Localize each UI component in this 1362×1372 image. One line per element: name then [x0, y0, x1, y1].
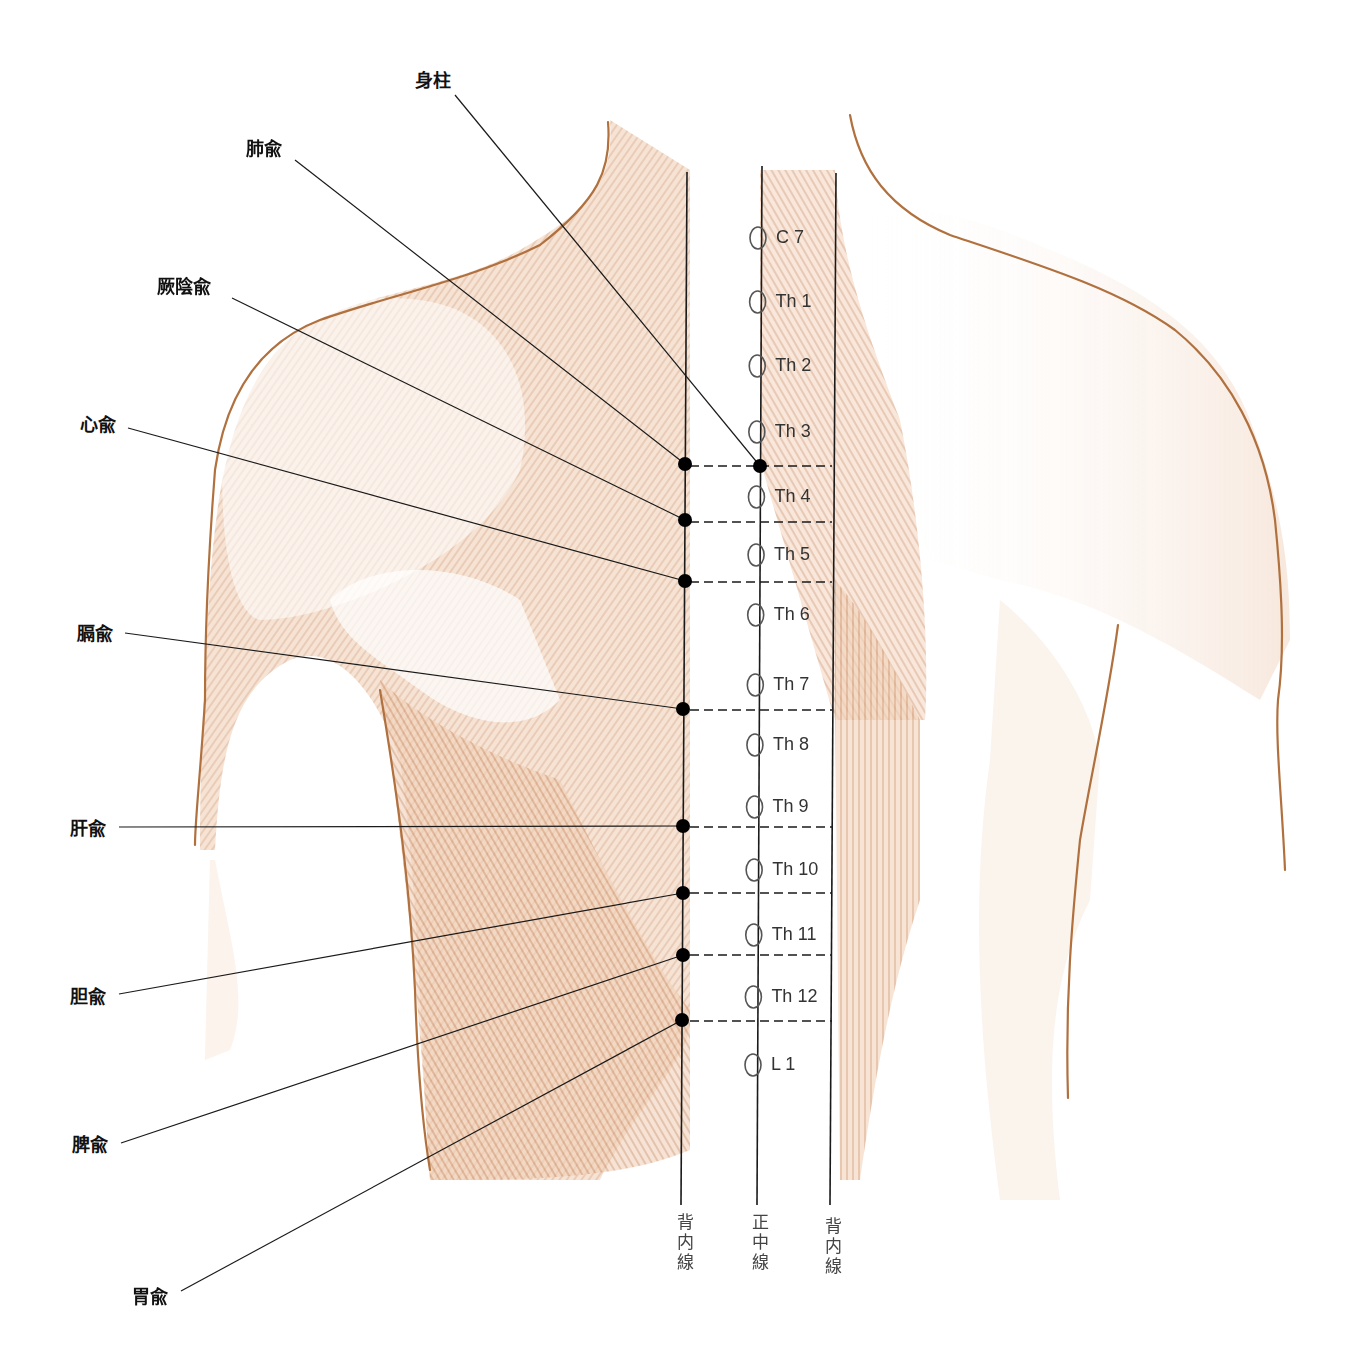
vertebra-oval-icon	[747, 796, 763, 818]
acupoint-label: 膈兪	[77, 625, 113, 643]
guide-line-label: 正中線	[750, 1212, 770, 1272]
vertebra-oval-icon	[748, 544, 764, 566]
acupoint-dot-icon[interactable]	[753, 459, 767, 473]
vertebra-label: Th 12	[771, 987, 817, 1005]
acupoint-label: 厥陰兪	[157, 278, 211, 296]
acupoint-label: 肝兪	[70, 820, 106, 838]
vertebra-label: Th 6	[774, 605, 810, 623]
acupoint-label: 胆兪	[70, 988, 106, 1006]
vertebra-label: Th 9	[773, 797, 809, 815]
acupoint-label: 肺兪	[246, 140, 282, 158]
acupoint-dot-icon[interactable]	[678, 574, 692, 588]
vertebra-label: C 7	[776, 228, 804, 246]
acupoint-dot-icon[interactable]	[676, 886, 690, 900]
vertebra-label: Th 7	[773, 675, 809, 693]
vertebra-label: Th 5	[774, 545, 810, 563]
vertebra-label: Th 11	[772, 925, 817, 943]
vertebra-label: Th 1	[776, 292, 812, 310]
acupoint-dot-icon[interactable]	[676, 819, 690, 833]
vertebra-oval-icon	[746, 859, 762, 881]
guide-line-label: 背内線	[675, 1212, 695, 1272]
vertebra-oval-icon	[748, 486, 764, 508]
vertebra-oval-icon	[745, 986, 761, 1008]
acupoint-label: 心兪	[80, 416, 116, 434]
vertebra-oval-icon	[747, 674, 763, 696]
acupoint-dot-icon[interactable]	[676, 702, 690, 716]
vertebra-oval-icon	[745, 1054, 761, 1076]
acupoint-label: 脾兪	[72, 1136, 108, 1154]
acupoint-back-diagram: 身柱肺兪厥陰兪心兪膈兪肝兪胆兪脾兪胃兪 C 7Th 1Th 2Th 3Th 4T…	[0, 0, 1362, 1372]
back-anatomy-illustration	[0, 0, 1362, 1372]
acupoint-dot-icon[interactable]	[678, 457, 692, 471]
acupoint-dot-icon[interactable]	[678, 513, 692, 527]
vertebra-label: Th 10	[772, 860, 818, 878]
right-back-muscles	[760, 170, 1290, 1200]
acupoint-dot-icon[interactable]	[675, 1013, 689, 1027]
acupoint-label: 身柱	[415, 72, 451, 90]
vertebra-label: Th 8	[773, 735, 809, 753]
left-back-muscles	[200, 120, 690, 1180]
vertebra-oval-icon	[747, 734, 763, 756]
vertebra-oval-icon	[748, 604, 764, 626]
acupoint-label: 胃兪	[132, 1288, 168, 1306]
vertebra-label: L 1	[771, 1055, 795, 1073]
vertebra-label: Th 4	[774, 487, 810, 505]
acupoint-dot-icon[interactable]	[676, 948, 690, 962]
vertebra-label: Th 2	[775, 356, 811, 374]
vertebra-label: Th 3	[775, 422, 811, 440]
guide-line-label: 背内線	[823, 1216, 843, 1276]
vertebra-oval-icon	[746, 924, 762, 946]
